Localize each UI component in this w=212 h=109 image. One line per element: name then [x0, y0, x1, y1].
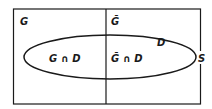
set-g-complement-label: Ḡ	[111, 15, 119, 27]
set-d-label: D	[157, 37, 165, 48]
venn-diagram: G Ḡ D S G ∩ D Ḡ ∩ D	[0, 0, 212, 109]
universe-s-label: S	[198, 53, 205, 64]
region-g-and-d: G ∩ D	[49, 53, 81, 64]
set-g-label: G	[20, 16, 28, 27]
universe-rectangle	[14, 9, 201, 104]
region-g-complement-and-d: Ḡ ∩ D	[111, 52, 143, 64]
